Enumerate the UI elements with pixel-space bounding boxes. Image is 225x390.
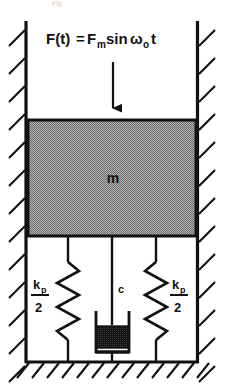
damper-piston — [96, 326, 129, 348]
spring-right-label-numerator: k — [172, 277, 180, 292]
diagram-root: Fig. — [0, 0, 225, 390]
damper-label: c — [118, 283, 124, 295]
spring-right-label-denominator: 2 — [174, 300, 181, 315]
mass-block: m — [28, 120, 196, 236]
mass-block-label: m — [107, 170, 119, 186]
spring-left-label-denominator: 2 — [35, 300, 42, 315]
vibration-system-figure: F(t) = F m sin ω o t m k p 2 — [0, 0, 225, 390]
force-equation-variable: t — [151, 30, 156, 47]
force-equation-lhs: F(t) — [46, 30, 70, 47]
force-equation-amplitude-subscript: m — [97, 39, 106, 50]
force-equation-amplitude: F — [87, 30, 96, 47]
spring-right-label-numerator-subscript: p — [180, 285, 186, 295]
force-equation-equals: = — [76, 30, 85, 47]
spring-left-label-numerator: k — [33, 277, 41, 292]
force-equation-sin: sin — [106, 30, 128, 47]
figure-caption-ghost: Fig. — [52, 0, 112, 7]
force-equation-omega-subscript: o — [143, 39, 149, 50]
spring-left-label-numerator-subscript: p — [41, 285, 47, 295]
force-equation-omega: ω — [130, 30, 143, 47]
